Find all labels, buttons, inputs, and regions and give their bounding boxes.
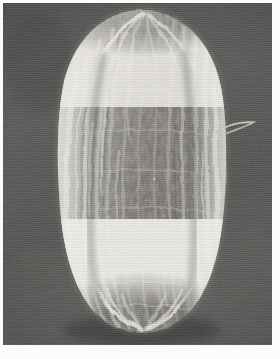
photographic-plate [3, 3, 272, 345]
figure-caption [0, 345, 280, 359]
micrograph-image [3, 3, 272, 345]
figure-page [0, 0, 280, 359]
